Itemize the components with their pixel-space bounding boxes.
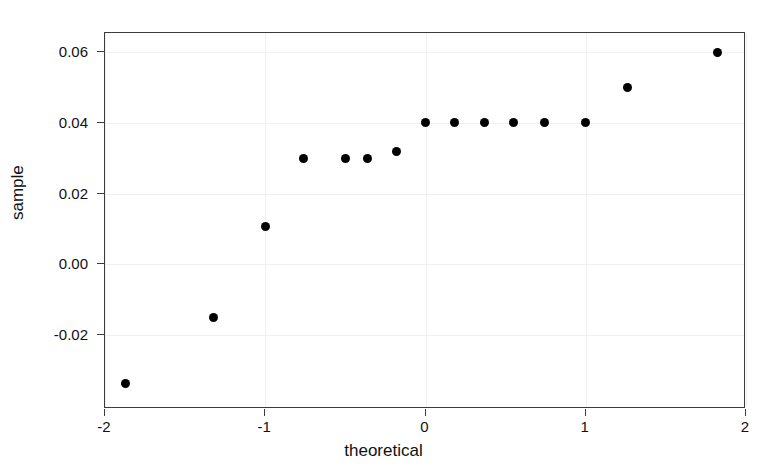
data-point <box>623 83 632 92</box>
y-axis-tick <box>97 51 104 52</box>
y-axis-tick-label: 0.04 <box>59 113 88 130</box>
data-point <box>392 147 401 156</box>
x-axis-tick <box>264 409 265 416</box>
gridline-vertical <box>105 33 106 407</box>
x-axis-tick <box>745 409 746 416</box>
data-point <box>480 118 489 127</box>
gridline-horizontal <box>105 52 744 53</box>
y-axis-tick-label: 0.06 <box>59 42 88 59</box>
data-point <box>363 154 372 163</box>
data-point <box>209 313 218 322</box>
gridline-horizontal <box>105 194 744 195</box>
y-axis-tick <box>97 334 104 335</box>
x-axis-tick <box>585 409 586 416</box>
cut-off-caption-text: — — —— — ——— —— ———— —— ——— <box>14 0 301 3</box>
x-axis-tick-label: 1 <box>581 418 589 435</box>
qq-plot-figure: — — —— — ——— —— ———— —— ——— 0.060.040.02… <box>0 0 767 473</box>
gridline-vertical <box>586 33 587 407</box>
data-point <box>450 118 459 127</box>
x-axis-tick-label: -1 <box>258 418 271 435</box>
gridline-horizontal <box>105 335 744 336</box>
data-point <box>341 154 350 163</box>
gridline-horizontal <box>105 264 744 265</box>
gridline-vertical <box>746 33 747 407</box>
y-axis-tick <box>97 263 104 264</box>
data-point <box>713 48 722 57</box>
y-axis-tick-label: -0.02 <box>54 326 88 343</box>
data-point <box>421 118 430 127</box>
y-axis-tick-label: 0.00 <box>59 255 88 272</box>
data-point <box>299 154 308 163</box>
data-point <box>121 379 130 388</box>
x-axis-label: theoretical <box>0 441 767 461</box>
y-axis-tick-label: 0.02 <box>59 184 88 201</box>
x-axis-tick-label: 2 <box>741 418 749 435</box>
plot-panel <box>104 32 745 408</box>
data-point <box>540 118 549 127</box>
x-axis-tick <box>104 409 105 416</box>
cut-off-caption-row: — — —— — ——— —— ———— —— ——— <box>0 0 767 10</box>
data-point <box>581 118 590 127</box>
gridline-vertical <box>265 33 266 407</box>
y-axis-tick <box>97 122 104 123</box>
x-axis-tick-label: 0 <box>420 418 428 435</box>
x-axis-tick-label: -2 <box>97 418 110 435</box>
data-point <box>509 118 518 127</box>
y-axis-tick <box>97 193 104 194</box>
y-axis-label: sample <box>8 165 28 220</box>
gridline-vertical <box>426 33 427 407</box>
data-point <box>261 222 270 231</box>
x-axis-tick <box>425 409 426 416</box>
